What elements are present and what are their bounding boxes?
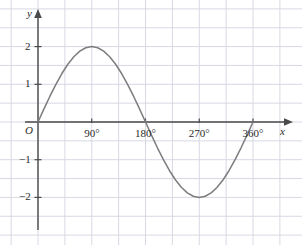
y-tick-label: −2 (19, 191, 31, 202)
y-tick-label: 1 (25, 78, 31, 89)
x-axis-arrow-icon (284, 118, 293, 126)
x-tick-label: 360° (243, 128, 264, 139)
x-tick-label: 270° (189, 128, 210, 139)
x-tick-label: 90° (84, 128, 99, 139)
x-tick-label: 180° (135, 128, 156, 139)
plot-canvas (0, 0, 302, 245)
y-tick-label: 2 (25, 41, 31, 52)
y-tick-label: −1 (19, 154, 31, 165)
origin-label: O (25, 125, 33, 136)
y-axis-label: y (27, 8, 32, 19)
x-axis-label: x (280, 126, 285, 137)
y-axis-arrow-icon (34, 9, 42, 18)
sine-graph-figure: y x O 90°180°270°360° 21−1−2 (0, 0, 302, 245)
